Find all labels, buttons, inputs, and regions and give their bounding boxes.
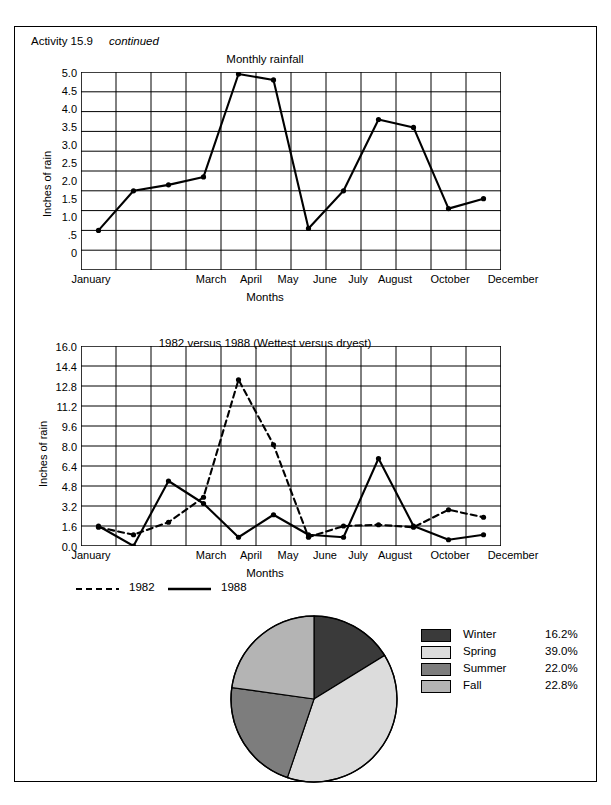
chart1-ytick-6: 3.0	[45, 139, 77, 151]
pie-legend-swatch-fall	[421, 680, 451, 693]
chart2-ytick-1: 1.6	[37, 521, 77, 533]
chart2-ytick-4: 6.4	[37, 461, 77, 473]
chart2-ytick-3: 4.8	[37, 481, 77, 493]
chart2-ytick-6: 9.6	[37, 421, 77, 433]
pie-legend-row-winter: Winter 16.2%	[421, 627, 591, 644]
chart1-ytick-3: 1.5	[45, 193, 77, 205]
pie-legend-row-spring: Spring 39.0%	[421, 644, 591, 661]
pie-legend-swatch-spring	[421, 646, 451, 659]
legend-solid-swatch-icon	[167, 579, 213, 599]
chart1-ytick-10: 5.0	[45, 67, 77, 79]
chart1-ytick-1: .5	[45, 229, 77, 241]
legend-dashed-swatch-icon	[75, 579, 121, 599]
chart2-xtick-11: December	[477, 549, 549, 561]
pie-legend-swatch-winter	[421, 629, 451, 642]
chart2-ytick-9: 14.4	[37, 361, 77, 373]
pie-legend-value-winter: 16.2%	[545, 628, 578, 640]
chart2-legend: 1982 1988	[75, 577, 295, 601]
pie-legend-label-summer: Summer	[463, 662, 506, 674]
chart1-ytick-8: 4.0	[45, 103, 77, 115]
chart2-ytick-7: 11.2	[37, 401, 77, 413]
pie-chart-legend: Winter 16.2% Spring 39.0% Summer 22.0% F…	[421, 627, 591, 695]
worksheet-page: Activity 15.9continued Monthly rainfall …	[14, 26, 597, 782]
pie-chart-svg	[224, 613, 404, 785]
continued-label: continued	[109, 35, 159, 47]
page-header: Activity 15.9continued	[31, 35, 159, 47]
chart1-xtick-0: January	[51, 273, 131, 285]
chart1-x-axis-title: Months	[205, 291, 325, 303]
chart2-xtick-9: October	[418, 549, 482, 561]
activity-label: Activity 15.9	[31, 35, 93, 47]
chart1-ytick-7: 3.5	[45, 121, 77, 133]
chart2-plot	[81, 346, 501, 546]
chart1-xtick-9: October	[418, 273, 482, 285]
pie-legend-value-spring: 39.0%	[545, 645, 578, 657]
chart1-ytick-2: 1.0	[45, 211, 77, 223]
chart2-ytick-5: 8.0	[37, 441, 77, 453]
pie-legend-label-fall: Fall	[463, 679, 482, 691]
chart1-ytick-4: 2.0	[45, 175, 77, 187]
pie-legend-label-winter: Winter	[463, 628, 496, 640]
chart1-xtick-11: December	[477, 273, 549, 285]
pie-legend-value-summer: 22.0%	[545, 662, 578, 674]
chart2-ytick-10: 16.0	[37, 341, 77, 353]
chart2-ytick-2: 3.2	[37, 501, 77, 513]
pie-legend-swatch-summer	[421, 663, 451, 676]
chart1-plot	[81, 72, 501, 270]
chart1-title: Monthly rainfall	[115, 53, 415, 65]
chart2-xtick-0: January	[51, 549, 131, 561]
chart1-ytick-9: 4.5	[45, 85, 77, 97]
chart1-ytick-0: 0	[45, 247, 77, 259]
pie-legend-row-fall: Fall 22.8%	[421, 678, 591, 695]
pie-legend-value-fall: 22.8%	[545, 679, 578, 691]
chart1-ytick-5: 2.5	[45, 157, 77, 169]
legend-label-1982: 1982	[129, 581, 155, 593]
legend-label-1988: 1988	[221, 581, 247, 593]
pie-chart	[224, 613, 404, 785]
chart2-ytick-8: 12.8	[37, 381, 77, 393]
pie-legend-row-summer: Summer 22.0%	[421, 661, 591, 678]
pie-legend-label-spring: Spring	[463, 645, 496, 657]
